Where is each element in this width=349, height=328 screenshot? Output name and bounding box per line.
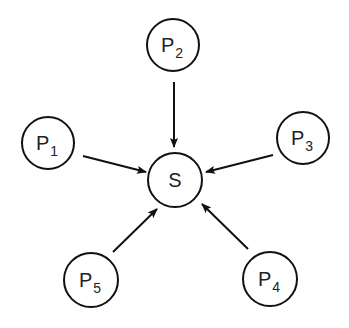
node-s: S [148, 153, 202, 207]
node-p4: P4 [243, 252, 297, 306]
star-diagram: P1P2P3P4P5S [0, 0, 349, 328]
node-p1: P1 [22, 117, 74, 169]
nodes: P1P2P3P4P5S [22, 19, 329, 307]
arrow-p1-to-s [83, 156, 146, 172]
arrow-p4-to-s [202, 204, 248, 249]
arrow-p3-to-s [206, 155, 273, 172]
arrow-p5-to-s [113, 209, 157, 252]
node-p5: P5 [64, 253, 118, 307]
node-p2: P2 [147, 19, 199, 71]
node-label: S [168, 169, 181, 191]
node-p3: P3 [277, 112, 329, 164]
